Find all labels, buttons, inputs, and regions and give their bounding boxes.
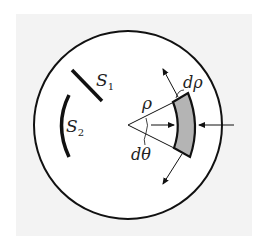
pressure-diagram: S1 S2 ρ dρ dθ	[0, 0, 268, 247]
label-rho: ρ	[141, 93, 152, 113]
label-d-rho: dρ	[183, 73, 203, 92]
label-d-theta: dθ	[131, 145, 151, 164]
